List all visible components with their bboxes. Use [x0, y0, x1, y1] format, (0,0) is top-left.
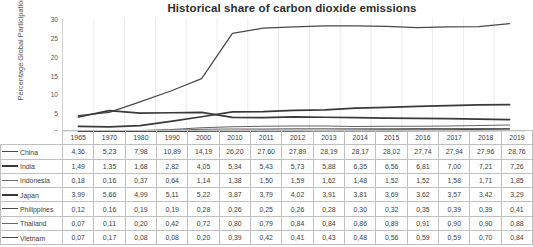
table-header-row: 1965197019801990200020102011201220132014…	[1, 131, 533, 145]
legend-line-icon	[2, 165, 18, 167]
column-header-2019: 2019	[501, 131, 532, 145]
column-header-1990: 1990	[157, 131, 188, 145]
cell-indonesia-2015: 1,52	[376, 173, 407, 187]
legend-row-thailand: Thailand	[1, 216, 63, 230]
cell-india-1965: 1,49	[63, 159, 94, 173]
cell-vietnam-2017: 0,59	[439, 231, 470, 245]
cell-india-2000: 4,05	[188, 159, 219, 173]
column-header-2018: 2018	[470, 131, 501, 145]
cell-india-2014: 6,35	[345, 159, 376, 173]
cell-philippines-2018: 0,39	[470, 202, 501, 216]
cell-china-2011: 27,60	[251, 145, 282, 159]
cell-indonesia-2018: 1,71	[470, 173, 501, 187]
series-lines	[63, 19, 525, 132]
cell-vietnam-2015: 0,56	[376, 231, 407, 245]
column-header-2014: 2014	[345, 131, 376, 145]
column-header-2000: 2000	[188, 131, 219, 145]
series-line-india	[78, 105, 509, 127]
cell-china-2013: 28,19	[313, 145, 344, 159]
cell-japan-2010: 3,87	[219, 188, 250, 202]
cell-vietnam-2010: 0,39	[219, 231, 250, 245]
cell-japan-2013: 3,91	[313, 188, 344, 202]
cell-thailand-2011: 0,79	[251, 216, 282, 230]
table-corner-cell	[1, 131, 63, 145]
cell-india-2013: 5,88	[313, 159, 344, 173]
legend-row-japan: Japan	[1, 188, 63, 202]
cell-japan-1990: 5,11	[157, 188, 188, 202]
cell-philippines-2016: 0,35	[407, 202, 438, 216]
cell-china-1980: 7,98	[125, 145, 156, 159]
column-header-2010: 2010	[219, 131, 250, 145]
cell-philippines-2015: 0,32	[376, 202, 407, 216]
legend-label: Japan	[20, 192, 39, 199]
y-tick-25: 25	[36, 34, 58, 41]
cell-india-1990: 2,82	[157, 159, 188, 173]
cell-india-2016: 6,81	[407, 159, 438, 173]
cell-philippines-2014: 0,30	[345, 202, 376, 216]
cell-japan-2017: 3,57	[439, 188, 470, 202]
table-row: Thailand0,070,110,200,420,720,800,790,84…	[1, 216, 533, 230]
chart-title: Historical share of carbon dioxide emiss…	[62, 2, 522, 14]
cell-japan-1970: 5,66	[94, 188, 125, 202]
cell-philippines-2011: 0,25	[251, 202, 282, 216]
cell-thailand-1980: 0,20	[125, 216, 156, 230]
column-header-2012: 2012	[282, 131, 313, 145]
cell-vietnam-1980: 0,08	[125, 231, 156, 245]
cell-thailand-2014: 0,86	[345, 216, 376, 230]
data-table-wrap: 1965197019801990200020102011201220132014…	[0, 130, 532, 245]
cell-vietnam-2014: 0,48	[345, 231, 376, 245]
cell-thailand-2000: 0,72	[188, 216, 219, 230]
cell-vietnam-2016: 0,59	[407, 231, 438, 245]
cell-japan-1965: 3,99	[63, 188, 94, 202]
column-header-1965: 1965	[63, 131, 94, 145]
cell-vietnam-2011: 0,42	[251, 231, 282, 245]
table-row: Japan3,995,664,995,115,223,873,794,023,9…	[1, 188, 533, 202]
cell-indonesia-1990: 0,64	[157, 173, 188, 187]
column-header-2013: 2013	[313, 131, 344, 145]
legend-line-icon	[2, 194, 18, 196]
cell-vietnam-2019: 0,84	[501, 231, 532, 245]
cell-vietnam-1970: 0,17	[94, 231, 125, 245]
column-header-1980: 1980	[125, 131, 156, 145]
cell-philippines-2013: 0,28	[313, 202, 344, 216]
cell-china-2017: 27,94	[439, 145, 470, 159]
table-row: China4,365,237,9810,8914,1926,2027,6027,…	[1, 145, 533, 159]
cell-china-2015: 28,02	[376, 145, 407, 159]
cell-india-2019: 7,26	[501, 159, 532, 173]
table-body: China4,365,237,9810,8914,1926,2027,6027,…	[1, 145, 533, 245]
column-header-2015: 2015	[376, 131, 407, 145]
cell-indonesia-2012: 1,59	[282, 173, 313, 187]
data-table: 1965197019801990200020102011201220132014…	[0, 130, 533, 245]
column-header-2016: 2016	[407, 131, 438, 145]
cell-india-2015: 6,56	[376, 159, 407, 173]
table-row: Indonesia0,180,160,370,641,141,381,501,5…	[1, 173, 533, 187]
cell-india-1970: 1,35	[94, 159, 125, 173]
plot-area	[62, 19, 524, 132]
legend-label: Indonesia	[20, 177, 50, 184]
legend-label: China	[20, 149, 38, 156]
legend-label: India	[20, 163, 35, 170]
series-line-china	[78, 24, 509, 116]
cell-indonesia-1970: 0,16	[94, 173, 125, 187]
cell-vietnam-2012: 0,41	[282, 231, 313, 245]
cell-china-2012: 27,89	[282, 145, 313, 159]
cell-china-1965: 4,36	[63, 145, 94, 159]
cell-philippines-2017: 0,39	[439, 202, 470, 216]
cell-india-2018: 7,21	[470, 159, 501, 173]
cell-japan-2012: 4,02	[282, 188, 313, 202]
cell-thailand-1990: 0,42	[157, 216, 188, 230]
cell-vietnam-2000: 0,20	[188, 231, 219, 245]
column-header-1970: 1970	[94, 131, 125, 145]
legend-row-china: China	[1, 145, 63, 159]
cell-vietnam-1990: 0,08	[157, 231, 188, 245]
cell-philippines-1970: 0,16	[94, 202, 125, 216]
cell-thailand-1970: 0,11	[94, 216, 125, 230]
cell-thailand-2010: 0,80	[219, 216, 250, 230]
cell-india-2012: 5,73	[282, 159, 313, 173]
cell-china-2014: 28,17	[345, 145, 376, 159]
legend-row-philippines: Philippines	[1, 202, 63, 216]
legend-line-icon	[2, 237, 18, 238]
cell-philippines-2019: 0,41	[501, 202, 532, 216]
cell-thailand-2017: 0,90	[439, 216, 470, 230]
